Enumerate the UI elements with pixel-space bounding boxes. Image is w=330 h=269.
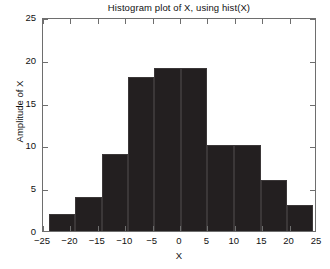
histogram-bar bbox=[102, 154, 128, 231]
x-tick-label: 25 bbox=[296, 236, 330, 246]
histogram-bar bbox=[261, 180, 287, 231]
histogram-bar bbox=[207, 145, 233, 231]
histogram-bar bbox=[234, 145, 261, 231]
histogram-bar bbox=[49, 214, 75, 231]
chart-title: Histogram plot of X, using hist(X) bbox=[42, 2, 316, 14]
histogram-bar bbox=[287, 205, 313, 231]
histogram-bar bbox=[154, 68, 181, 231]
histogram-bars bbox=[43, 19, 315, 231]
histogram-bar bbox=[181, 68, 207, 231]
histogram-bar bbox=[128, 77, 154, 231]
figure-canvas: Histogram plot of X, using hist(X) 05101… bbox=[0, 0, 330, 269]
histogram-bar bbox=[75, 197, 102, 231]
y-tick-label: 5 bbox=[0, 184, 36, 194]
plot-axes bbox=[42, 18, 316, 232]
y-axis-label: Amplitude of X bbox=[14, 52, 25, 172]
y-tick-label: 25 bbox=[0, 13, 36, 23]
x-axis-label: X bbox=[42, 250, 316, 261]
